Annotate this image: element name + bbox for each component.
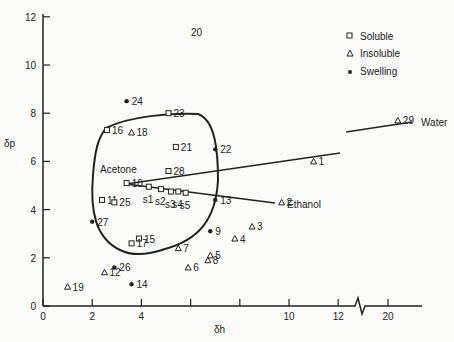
legend-insoluble: Insoluble [360,48,400,59]
svg-text:28: 28 [173,166,185,177]
svg-text:2: 2 [89,311,95,322]
svg-text:7: 7 [183,243,189,254]
legend: Soluble Insoluble Swelling [347,31,400,77]
svg-text:19: 19 [73,282,85,293]
svg-text:29: 29 [403,115,415,126]
label-20: 20 [191,27,203,38]
svg-text:18: 18 [137,127,149,138]
svg-text:14: 14 [137,279,149,290]
svg-text:26: 26 [119,262,131,273]
legend-swelling: Swelling [360,66,397,77]
svg-text:10: 10 [25,60,37,71]
svg-text:s5: s5 [180,200,191,211]
svg-text:4: 4 [30,205,36,216]
svg-text:27: 27 [97,217,109,228]
svg-text:6: 6 [30,156,36,167]
x-axis-ticks: 024101220 [40,299,394,322]
y-axis-label: δp [4,138,16,149]
svg-text:20: 20 [382,311,394,322]
svg-text:12: 12 [25,12,37,23]
svg-text:8: 8 [30,108,36,119]
svg-text:4: 4 [139,311,145,322]
svg-text:0: 0 [30,301,36,312]
svg-text:22: 22 [220,144,232,155]
label-acetone: Acetone [100,164,137,175]
svg-text:10: 10 [132,178,144,189]
label-ethanol: Ethanol [287,199,321,210]
svg-text:4: 4 [240,234,246,245]
svg-text:0: 0 [40,311,46,322]
svg-text:6: 6 [193,262,199,273]
svg-text:25: 25 [119,197,131,208]
scatter-chart: 024681012 024101220 δh δp 12345678910111… [0,0,454,342]
svg-text:24: 24 [132,96,144,107]
y-axis-ticks: 024681012 [25,12,50,312]
svg-text:21: 21 [181,142,193,153]
svg-text:1: 1 [319,156,325,167]
legend-soluble: Soluble [360,31,394,42]
data-points: 1234567891011121314151617181921222324252… [65,96,415,293]
svg-text:2: 2 [30,253,36,264]
svg-text:17: 17 [137,238,149,249]
svg-text:12: 12 [333,311,345,322]
svg-text:23: 23 [173,108,185,119]
x-axis-label: δh [214,324,225,335]
svg-text:13: 13 [220,195,232,206]
svg-text:8: 8 [213,255,219,266]
svg-text:16: 16 [112,125,124,136]
svg-text:3: 3 [257,221,263,232]
svg-text:10: 10 [283,311,295,322]
svg-text:9: 9 [215,226,221,237]
label-water: Water [421,117,448,128]
svg-text:s1: s1 [143,194,154,205]
